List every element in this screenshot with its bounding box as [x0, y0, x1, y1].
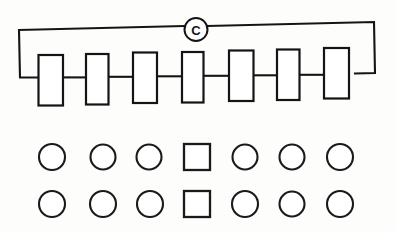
node-2-3 — [137, 191, 163, 217]
element-4 — [182, 52, 204, 103]
element-6 — [277, 50, 300, 101]
element-1 — [39, 55, 64, 106]
node-2-4 — [184, 191, 210, 217]
node-1-1 — [39, 144, 65, 170]
circuit-diagram-canvas: C — [0, 0, 396, 233]
node-1-2 — [91, 145, 116, 170]
node-row-2 — [39, 191, 353, 217]
node-1-4 — [184, 144, 210, 170]
node-row-1 — [39, 144, 353, 170]
node-1-7 — [327, 144, 353, 170]
node-2-2 — [90, 191, 116, 217]
node-2-5 — [232, 191, 258, 217]
node-1-6 — [280, 145, 305, 170]
series-element-group — [39, 48, 350, 106]
element-5 — [229, 51, 254, 102]
node-1-3 — [137, 145, 162, 170]
node-2-1 — [39, 191, 65, 217]
source-label: C — [191, 23, 201, 38]
node-symbol-grid — [39, 144, 353, 217]
element-3 — [133, 53, 157, 104]
source-symbol-group: C — [185, 18, 208, 41]
circuit-figure: C — [0, 0, 396, 233]
node-1-5 — [233, 145, 258, 170]
node-2-7 — [327, 191, 353, 217]
element-2 — [86, 54, 109, 105]
node-2-6 — [280, 192, 305, 217]
element-7 — [324, 48, 349, 99]
